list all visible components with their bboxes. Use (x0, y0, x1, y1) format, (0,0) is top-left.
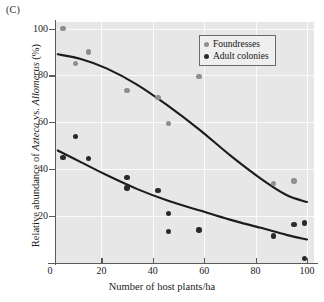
x-tick-label: 20 (81, 265, 121, 276)
data-point-foundress (291, 178, 296, 183)
data-point-foundress (86, 49, 91, 54)
gridline-horizontal (56, 216, 314, 217)
x-tick-label: 100 (287, 265, 324, 276)
y-axis-title-post: (%) (30, 44, 41, 62)
x-tick-label: 60 (184, 265, 224, 276)
data-point-foundress (155, 95, 160, 100)
data-point-adult (271, 233, 276, 238)
data-point-foundress (196, 74, 201, 79)
x-tick-mark (307, 258, 308, 264)
data-point-adult (166, 229, 171, 234)
y-tick-mark (49, 216, 55, 217)
legend-item-foundresses: Foundresses (204, 38, 269, 50)
x-axis-line (48, 263, 318, 264)
legend-item-adult-colonies: Adult colonies (204, 50, 269, 62)
y-tick-label: 20 (8, 210, 48, 221)
gridline-horizontal (56, 75, 314, 76)
y-axis-line (55, 20, 56, 265)
data-point-adult (302, 256, 307, 261)
gridline-vertical (307, 22, 308, 263)
legend-item-label: Foundresses (213, 38, 260, 50)
y-tick-mark (49, 169, 55, 170)
x-tick-mark (153, 258, 154, 264)
x-axis-title: Number of host plants/ha (0, 281, 324, 292)
gridline-vertical (101, 22, 102, 263)
gridline-horizontal (56, 122, 314, 123)
chart-legend: FoundressesAdult colonies (199, 35, 276, 66)
data-point-adult (124, 185, 129, 190)
y-tick-label: 80 (8, 69, 48, 80)
data-point-foundress (60, 26, 65, 31)
y-tick-mark (49, 29, 55, 30)
legend-marker-icon (204, 42, 209, 47)
y-axis-title: Relative abundance of Azteca vs. Allomer… (30, 26, 41, 266)
legend-marker-icon (204, 54, 209, 59)
gridline-horizontal (56, 169, 314, 170)
data-point-adult (291, 222, 296, 227)
x-tick-label: 0 (30, 265, 70, 276)
data-point-adult (60, 155, 65, 160)
y-tick-label: 60 (8, 116, 48, 127)
figure-panel-c: (C) Relative abundance of Azteca vs. All… (0, 0, 324, 302)
x-tick-mark (256, 258, 257, 264)
data-point-adult (302, 220, 307, 225)
y-tick-label: 100 (8, 23, 48, 34)
gridline-horizontal (56, 29, 314, 30)
data-point-adult (155, 188, 160, 193)
x-tick-mark (101, 258, 102, 264)
data-point-adult (196, 227, 201, 232)
x-tick-label: 80 (236, 265, 276, 276)
y-tick-label: 40 (8, 163, 48, 174)
panel-label: (C) (6, 4, 20, 15)
gridline-vertical (153, 22, 154, 263)
x-tick-label: 40 (133, 265, 173, 276)
legend-item-label: Adult colonies (213, 50, 269, 62)
y-tick-mark (49, 75, 55, 76)
x-tick-mark (204, 258, 205, 264)
data-point-foundress (166, 121, 171, 126)
y-tick-mark (49, 122, 55, 123)
data-point-adult (124, 175, 129, 180)
